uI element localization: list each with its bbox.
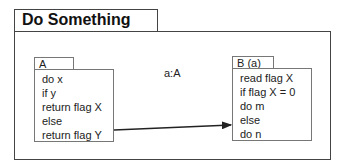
- arrow-connector: [0, 0, 345, 167]
